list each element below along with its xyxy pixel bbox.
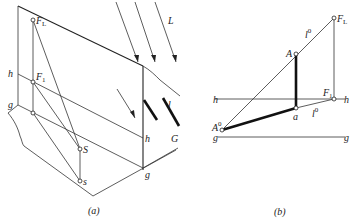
label-l: l (168, 99, 171, 110)
ground-right-edge (143, 148, 178, 168)
point-F1 (31, 80, 35, 84)
point-s (78, 179, 82, 183)
line-g-to-s (33, 113, 80, 181)
panel-a: FL F1 h g S s h g L l G (a) (8, 2, 180, 217)
point-FL-b (332, 16, 336, 20)
label-L: L (167, 15, 174, 26)
light-ray-3 (155, 2, 176, 62)
label-A: A (285, 48, 293, 59)
label-h-left: h (8, 68, 13, 79)
label-h-right: h (145, 133, 150, 144)
label-g-left: g (8, 99, 13, 110)
diagram-canvas: FL F1 h g S s h g L l G (a) FL A a A0 F1… (0, 0, 353, 222)
ground-line (18, 105, 143, 168)
light-ray-2 (135, 2, 155, 62)
label-F1: F1 (35, 71, 46, 84)
ground-plane-far-edge (143, 66, 180, 96)
label-S: S (83, 144, 88, 155)
label-g-right-b: g (344, 132, 349, 143)
line-segment-shadow (144, 100, 157, 120)
label-G: G (171, 133, 178, 144)
line-FL-to-S (33, 20, 80, 149)
label-h-left-b: h (213, 94, 218, 105)
arrowhead-icon (134, 55, 139, 62)
arrowhead-icon (172, 55, 177, 62)
ground-plane-outline (8, 105, 176, 196)
label-l0-lower: l0 (312, 106, 319, 119)
line-segment-l (163, 98, 179, 126)
label-h-right-b: h (344, 94, 349, 105)
point-a (294, 106, 298, 110)
panel-b: FL A a A0 F1 l0 l0 h h g g (b) (211, 13, 349, 218)
point-g-foot (31, 111, 35, 115)
label-FL: FL (35, 15, 46, 28)
label-s: s (83, 176, 87, 187)
point-FL (31, 18, 35, 22)
point-A0 (220, 128, 224, 132)
point-A (294, 52, 298, 56)
caption-a: (a) (88, 205, 100, 217)
arrowhead-icon (151, 55, 156, 62)
label-l0-upper: l0 (305, 27, 312, 40)
label-F1-b: F1 (322, 87, 333, 100)
label-FL-b: FL (336, 13, 347, 26)
point-S (78, 147, 82, 151)
label-a: a (293, 111, 298, 122)
horizon-line (18, 74, 143, 138)
light-ray-1 (116, 2, 138, 62)
caption-b: (b) (274, 206, 286, 218)
line-F1-to-S (33, 82, 80, 149)
label-g-left-b: g (213, 132, 218, 143)
label-g-right: g (145, 169, 150, 180)
